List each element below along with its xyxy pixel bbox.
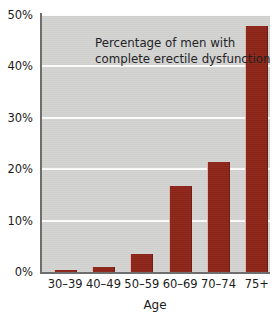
x-axis-tick-label: 70–74 xyxy=(201,277,236,291)
chart-title-line: complete erectile dysfunction xyxy=(95,51,276,67)
x-axis-tick-label: 50–59 xyxy=(124,277,159,291)
bar xyxy=(207,162,230,273)
y-axis-tick-label: 30% xyxy=(7,111,33,125)
chart-title-line: Percentage of men with xyxy=(95,35,276,51)
x-axis-line xyxy=(40,272,270,274)
bar xyxy=(169,186,192,272)
bar xyxy=(130,254,153,273)
y-axis-tick-label: 10% xyxy=(7,214,33,228)
chart-figure: 0%10%20%30%40%50% Percentage of men with… xyxy=(0,0,276,324)
x-axis-tick-label: 40–49 xyxy=(86,277,121,291)
x-axis-title: Age xyxy=(40,298,270,312)
gridline xyxy=(40,14,270,16)
plot-area: Percentage of men withcomplete erectile … xyxy=(40,15,270,272)
y-axis-tick-label: 20% xyxy=(7,162,33,176)
gridline xyxy=(40,117,270,119)
y-axis-tick-label: 50% xyxy=(7,8,33,22)
gridline xyxy=(40,168,270,170)
x-axis-tick-label: 75+ xyxy=(245,277,269,291)
y-axis-tick-label: 0% xyxy=(15,265,33,279)
y-axis-line xyxy=(40,13,42,274)
x-axis-tick-labels: 30–3940–4950–5960–6970–7475+ xyxy=(40,277,270,295)
y-axis-tick-label: 40% xyxy=(7,59,33,73)
x-axis-tick-label: 60–69 xyxy=(163,277,198,291)
y-axis-tick-labels: 0%10%20%30%40%50% xyxy=(0,0,36,324)
x-axis-tick-label: 30–39 xyxy=(48,277,83,291)
chart-title: Percentage of men withcomplete erectile … xyxy=(95,35,276,67)
gridline xyxy=(40,220,270,222)
